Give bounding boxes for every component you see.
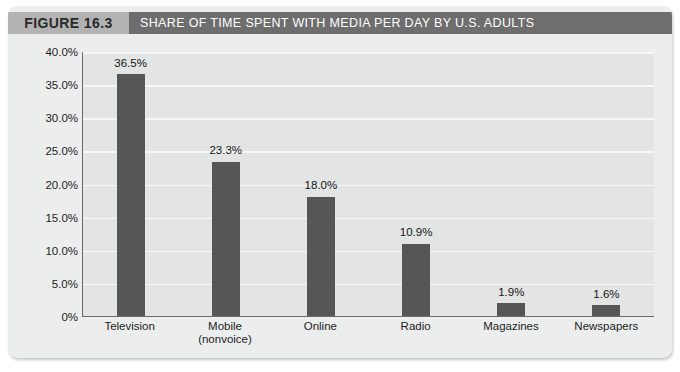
x-axis-tick-label: Radio <box>368 320 463 346</box>
bar-group: 10.9% <box>369 52 464 316</box>
bar <box>592 305 620 316</box>
bar <box>117 74 145 316</box>
bar <box>212 162 240 316</box>
bar-group: 18.0% <box>273 52 368 316</box>
x-axis-tick-label: Mobile(nonvoice) <box>177 320 272 346</box>
y-axis-tick: 25.0% <box>45 145 78 157</box>
bar <box>497 303 525 316</box>
x-axis-tick-label: Newspapers <box>559 320 654 346</box>
bar-value-label: 10.9% <box>400 227 433 239</box>
plot-area: 36.5%23.3%18.0%10.9%1.9%1.6% <box>82 52 654 317</box>
bar <box>402 244 430 316</box>
y-axis-tick: 15.0% <box>45 212 78 224</box>
x-axis-tick-label-line: Newspapers <box>559 320 654 333</box>
x-axis-tick-label-line: Television <box>82 320 177 333</box>
x-axis-tick-label-line: Online <box>273 320 368 333</box>
y-axis-labels: 40.0%35.0%30.0%25.0%20.0%15.0%10.0%5.0%0… <box>22 52 78 317</box>
bar-group: 36.5% <box>83 52 178 316</box>
figure-number-badge: FIGURE 16.3 <box>8 12 129 34</box>
figure-header: FIGURE 16.3 SHARE OF TIME SPENT WITH MED… <box>8 12 672 34</box>
x-axis-tick-label: Online <box>273 320 368 346</box>
figure-card: FIGURE 16.3 SHARE OF TIME SPENT WITH MED… <box>8 6 672 358</box>
bars-layer: 36.5%23.3%18.0%10.9%1.9%1.6% <box>83 52 654 316</box>
bar-value-label: 36.5% <box>114 58 147 70</box>
bar-value-label: 23.3% <box>209 145 242 157</box>
x-axis-tick-label-line: Magazines <box>463 320 558 333</box>
x-axis-tick-label-line: Mobile <box>177 320 272 333</box>
bar-chart: 40.0%35.0%30.0%25.0%20.0%15.0%10.0%5.0%0… <box>8 40 672 358</box>
bar-group: 1.6% <box>559 52 654 316</box>
x-axis-tick-label-line: Radio <box>368 320 463 333</box>
bar <box>307 197 335 316</box>
x-axis-tick-label: Television <box>82 320 177 346</box>
y-axis-tick: 20.0% <box>45 179 78 191</box>
x-axis-labels: TelevisionMobile(nonvoice)OnlineRadioMag… <box>82 320 654 346</box>
y-axis-tick: 0% <box>61 311 78 323</box>
bar-group: 23.3% <box>178 52 273 316</box>
y-axis-tick: 40.0% <box>45 46 78 58</box>
bar-value-label: 1.9% <box>498 287 524 299</box>
y-axis-tick: 5.0% <box>52 278 78 290</box>
bar-group: 1.9% <box>464 52 559 316</box>
figure-title: SHARE OF TIME SPENT WITH MEDIA PER DAY B… <box>129 12 672 34</box>
x-axis-tick-label: Magazines <box>463 320 558 346</box>
bar-value-label: 18.0% <box>305 180 338 192</box>
bar-value-label: 1.6% <box>593 289 619 301</box>
y-axis-tick: 35.0% <box>45 79 78 91</box>
y-axis-tick: 10.0% <box>45 245 78 257</box>
x-axis-tick-label-line: (nonvoice) <box>177 333 272 346</box>
y-axis-tick: 30.0% <box>45 112 78 124</box>
